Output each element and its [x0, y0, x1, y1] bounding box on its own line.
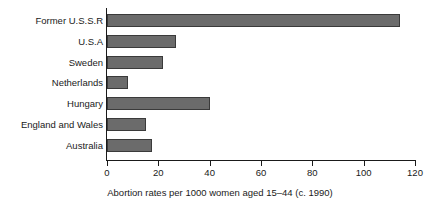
x-axis-title: Abortion rates per 1000 women aged 15–44…: [0, 186, 440, 199]
bar: [107, 35, 176, 48]
bar: [107, 56, 163, 69]
category-label: England and Wales: [0, 118, 103, 131]
x-tick-mark: [364, 161, 365, 166]
x-tick-label: 60: [256, 167, 267, 179]
bar: [107, 14, 400, 27]
bar-chart: Former U.S.S.RU.S.ASwedenNetherlandsHung…: [0, 0, 440, 209]
category-label: Netherlands: [0, 76, 103, 89]
x-tick-label: 20: [153, 167, 164, 179]
x-tick-label: 100: [356, 167, 372, 179]
x-tick-mark: [415, 161, 416, 166]
category-label: Sweden: [0, 56, 103, 69]
x-tick-mark: [261, 161, 262, 166]
bar: [107, 139, 152, 152]
x-tick-label: 120: [407, 167, 423, 179]
x-tick-label: 80: [307, 167, 318, 179]
x-tick-mark: [107, 161, 108, 166]
category-label: Hungary: [0, 97, 103, 110]
x-tick-label: 0: [104, 167, 109, 179]
bar: [107, 118, 146, 131]
plot-area: [107, 8, 415, 160]
x-tick-mark: [312, 161, 313, 166]
bar: [107, 76, 128, 89]
category-label: U.S.A: [0, 35, 103, 48]
category-label: Australia: [0, 139, 103, 152]
x-tick-label: 40: [204, 167, 215, 179]
x-tick-mark: [158, 161, 159, 166]
category-label: Former U.S.S.R: [0, 14, 103, 27]
bar: [107, 97, 210, 110]
x-tick-mark: [210, 161, 211, 166]
